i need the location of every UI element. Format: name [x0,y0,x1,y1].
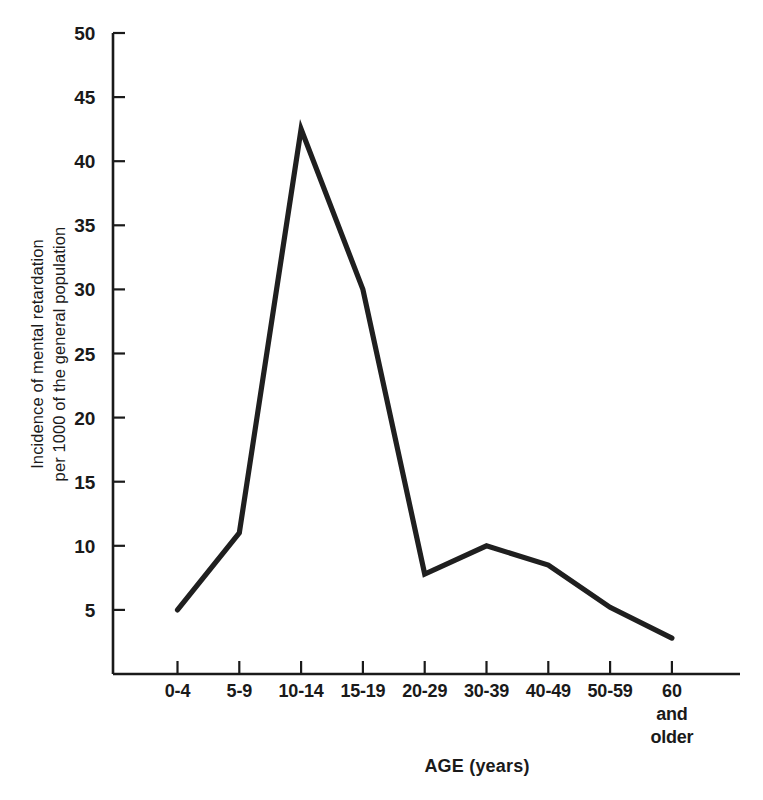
y-tick-label: 30 [74,279,95,300]
x-tick-label: 15-19 [340,681,385,701]
y-tick-label: 50 [74,23,95,44]
y-tick-label: 20 [74,408,95,429]
y-axis-title-line-2: per 1000 of the general population [50,227,68,482]
x-tick-label: 5-9 [227,681,253,701]
y-tick-label: 45 [74,87,95,108]
x-tick-label: 10-14 [279,681,324,701]
x-tick-label: older [650,727,693,747]
x-tick-label: 40-49 [526,681,571,701]
y-axis-title-line-1: Incidence of mental retardation [28,239,46,469]
y-tick-label: 5 [85,600,96,621]
chart-figure: 5101520253035404550 0-45-910-1415-1920-2… [0,0,763,800]
x-tick-label: 50-59 [588,681,633,701]
x-tick-label: 30-39 [464,681,509,701]
y-tick-label: 15 [74,472,95,493]
chart-background [0,0,763,800]
x-tick-label: 60 [662,681,682,701]
line-chart-svg: 5101520253035404550 0-45-910-1415-1920-2… [0,0,763,800]
y-tick-label: 25 [74,344,95,365]
x-axis-title: AGE (years) [424,756,529,776]
x-tick-label: 0-4 [165,681,191,701]
y-tick-label: 40 [74,151,95,172]
x-tick-label: and [656,704,687,724]
y-tick-label: 10 [74,536,95,557]
y-tick-label: 35 [74,215,95,236]
x-tick-label: 20-29 [402,681,447,701]
